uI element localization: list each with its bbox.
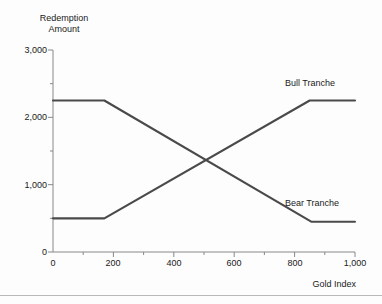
y-axis-title-line1: Redemption: [40, 13, 89, 23]
x-tick-label-400: 400: [152, 258, 196, 268]
x-tick-label-0: 0: [31, 258, 75, 268]
y-tick-label-0: 0: [13, 247, 47, 257]
x-tick-label-800: 800: [273, 258, 317, 268]
y-tick-label-3000: 3,000: [13, 45, 47, 55]
y-tick-label-1000: 1,000: [13, 180, 47, 190]
y-tick-label-2000: 2,000: [13, 112, 47, 122]
x-axis-title: Gold Index: [252, 279, 356, 290]
chart-figure: RedemptionAmount Gold Index 3,000 2,000 …: [0, 0, 382, 304]
y-axis-ticks: [48, 50, 53, 252]
x-tick-label-1000: 1,000: [333, 258, 377, 268]
x-tick-label-200: 200: [91, 258, 135, 268]
y-axis-title-line2: Amount: [48, 24, 79, 34]
y-axis-title: RedemptionAmount: [22, 13, 106, 35]
x-axis-ticks: [83, 252, 355, 257]
series-label-bull-tranche: Bull Tranche: [285, 78, 335, 88]
footer-divider: [0, 295, 382, 296]
x-tick-label-600: 600: [212, 258, 256, 268]
series-label-bear-tranche: Bear Tranche: [285, 198, 339, 208]
